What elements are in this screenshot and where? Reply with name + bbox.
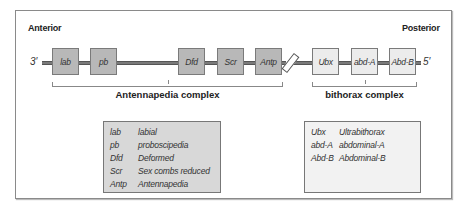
legend-row: DfdDeformed <box>110 152 214 165</box>
legend-row: UbxUltrabithorax <box>311 126 414 139</box>
legend-name: Abdominal-B <box>339 152 385 165</box>
antennapedia-brace <box>52 82 283 87</box>
gene-ubx: Ubx <box>312 48 339 75</box>
bithorax-complex-label: bithorax complex <box>312 89 417 100</box>
legend-row: pbproboscipedia <box>110 139 214 152</box>
legend-name: labial <box>138 126 157 139</box>
gene-pb: pb <box>90 48 117 75</box>
gene-lab: lab <box>52 48 79 75</box>
legend-row: Abd-BAbdominal-B <box>311 152 414 165</box>
antennapedia-legend: lablabial pbproboscipedia DfdDeformed Sc… <box>103 121 221 193</box>
legend-abbr: abd-A <box>311 139 339 152</box>
anterior-label: Anterior <box>28 23 61 33</box>
three-prime-label: 3′ <box>30 56 37 67</box>
bithorax-legend: UbxUltrabithorax abd-Aabdominal-A Abd-BA… <box>304 121 421 193</box>
legend-name: Sex combs reduced <box>138 165 210 178</box>
legend-row: lablabial <box>110 126 214 139</box>
legend-name: Antennapedia <box>138 178 188 191</box>
legend-abbr: Antp <box>110 178 138 191</box>
five-prime-label: 5′ <box>423 56 430 67</box>
gene-abd-a: abd-A <box>351 48 378 75</box>
legend-abbr: Ubx <box>311 126 339 139</box>
posterior-label: Posterior <box>402 23 440 33</box>
legend-abbr: Abd-B <box>311 152 339 165</box>
antennapedia-complex-label: Antennapedia complex <box>52 89 283 100</box>
legend-name: proboscipedia <box>138 139 188 152</box>
legend-row: AntpAntennapedia <box>110 178 214 191</box>
legend-row: ScrSex combs reduced <box>110 165 214 178</box>
gene-scr: Scr <box>217 48 244 75</box>
bithorax-brace <box>312 82 417 87</box>
legend-abbr: pb <box>110 139 138 152</box>
legend-name: Deformed <box>138 152 174 165</box>
legend-abbr: Dfd <box>110 152 138 165</box>
legend-row: abd-Aabdominal-A <box>311 139 414 152</box>
gene-dfd: Dfd <box>178 48 205 75</box>
legend-name: Ultrabithorax <box>339 126 385 139</box>
legend-name: abdominal-A <box>339 139 385 152</box>
gene-antp: Antp <box>255 48 282 75</box>
gene-abd-b: Abd-B <box>389 48 416 75</box>
legend-abbr: Scr <box>110 165 138 178</box>
legend-abbr: lab <box>110 126 138 139</box>
